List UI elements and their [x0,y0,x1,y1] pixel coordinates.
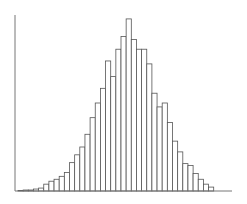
histogram-bar [126,19,131,191]
histogram-chart [0,0,247,204]
histogram-bar [188,166,193,191]
histogram-bar [152,93,157,191]
histogram-bar [100,88,105,191]
histogram-bars [18,19,214,191]
histogram-bar [106,61,111,191]
histogram-bar [209,187,214,191]
histogram-bar [75,155,80,191]
histogram-bar [167,123,172,191]
histogram-bar [203,184,208,191]
histogram-bar [162,103,167,191]
histogram-bar [157,107,162,191]
histogram-bar [198,179,203,191]
histogram-bar [111,77,116,191]
histogram-bar [95,103,100,191]
histogram-bar [59,176,64,191]
histogram-bar [136,49,141,191]
histogram-bar [193,173,198,191]
histogram-bar [142,49,147,191]
histogram-bar [64,172,69,191]
histogram-bar [147,64,152,191]
histogram-bar [121,37,126,191]
histogram-bar [85,134,90,191]
histogram-bar [49,181,54,191]
histogram-bar [178,152,183,191]
histogram-bar [44,184,49,191]
histogram-bar [183,164,188,191]
histogram-bar [131,39,136,191]
histogram-bar [173,141,178,191]
histogram-bar [54,179,59,191]
histogram-bar [90,118,95,191]
histogram-bar [70,163,75,191]
histogram-bar [116,49,121,191]
histogram-bar [80,147,85,191]
